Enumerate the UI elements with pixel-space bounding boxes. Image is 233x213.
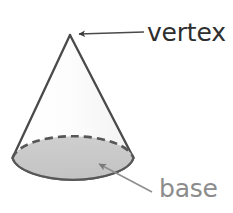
vertex-label: vertex [147, 20, 226, 45]
base-label: base [159, 176, 218, 201]
vertex-leader-arrow [79, 32, 144, 34]
cone-diagram: vertex base [0, 0, 233, 213]
